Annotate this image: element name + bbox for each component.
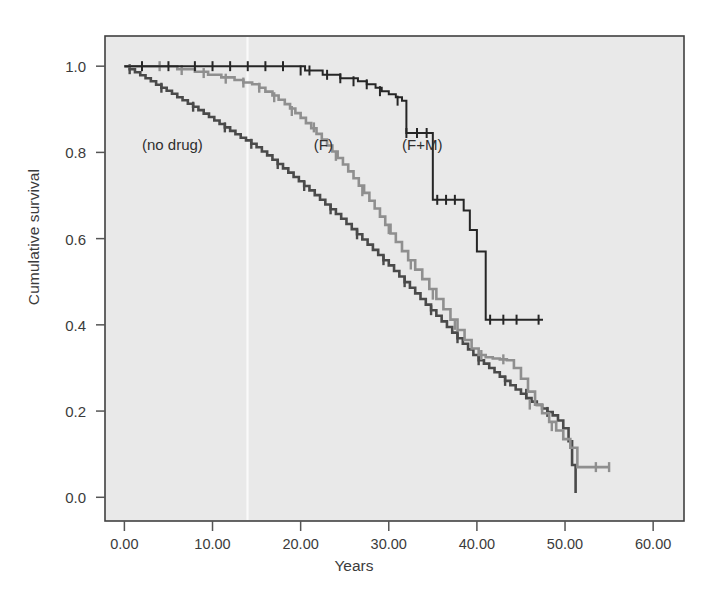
y-tick-label-3: 0.6 (40, 230, 86, 247)
curve-label-f: (F) (314, 136, 333, 153)
y-tick-label-2: 0.4 (40, 316, 86, 333)
y-tick-label-5: 1.0 (40, 58, 86, 75)
x-tick-label-5: 50.00 (530, 536, 600, 552)
survival-chart-figure: Cumulative survival Years 0.00.20.40.60.… (0, 0, 708, 592)
x-tick-label-3: 30.00 (354, 536, 424, 552)
y-tick-label-1: 0.2 (40, 403, 86, 420)
curve-label-f-plus-m: (F+M) (402, 136, 442, 153)
x-tick-label-0: 0.00 (89, 536, 159, 552)
x-tick-label-6: 60.00 (618, 536, 688, 552)
x-tick-label-2: 20.00 (266, 536, 336, 552)
y-tick-label-0: 0.0 (40, 489, 86, 506)
x-tick-label-4: 40.00 (442, 536, 512, 552)
plot-area (105, 36, 684, 521)
y-tick-label-4: 0.8 (40, 144, 86, 161)
x-axis-title: Years (0, 557, 708, 575)
curve-label-no-drug: (no drug) (142, 136, 203, 153)
plot-canvas (0, 0, 708, 592)
x-tick-label-1: 10.00 (178, 536, 248, 552)
